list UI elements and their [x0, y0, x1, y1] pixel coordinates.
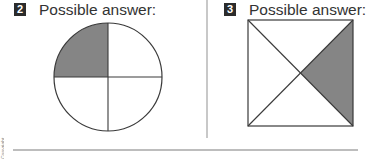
- shaded-triangle: [301, 20, 354, 126]
- bottom-rule: [13, 149, 358, 151]
